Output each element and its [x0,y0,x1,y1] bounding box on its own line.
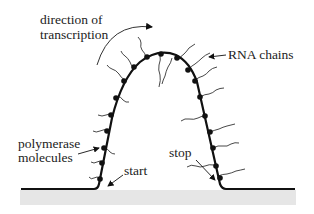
polymerase-pointer [78,148,99,154]
dna-template [21,53,295,189]
polymerase-label-line2: molecules [18,151,73,165]
rna-chains-label: RNA chains [228,48,294,62]
direction-label-line2: transcription [40,28,108,42]
surface-band [20,190,296,205]
rna-chains [89,37,245,179]
stop-pointer [196,160,215,180]
polymerase-label-line1: polymerase [18,137,80,151]
direction-label-line1: direction of [40,13,103,27]
transcription-diagram: direction of transcription RNA chains po… [0,0,314,214]
stop-label: stop [169,146,192,160]
start-pointer [108,175,123,186]
start-label: start [124,164,147,178]
rna-chains-pointer [209,55,226,57]
